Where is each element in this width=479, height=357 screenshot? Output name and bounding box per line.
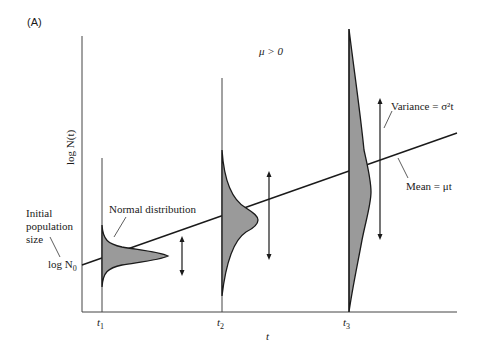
condition-label: μ > 0 [259, 45, 283, 58]
panel-label: (A) [27, 16, 42, 29]
y-axis-label-text: log N(t) [64, 130, 76, 165]
tick-t2-sub: 2 [220, 322, 224, 331]
t1-distribution [102, 225, 168, 287]
initial-population-line3: size [26, 233, 73, 246]
leader-normal-distribution [114, 217, 126, 237]
arrow-down-icon [378, 234, 383, 240]
t2-distribution [222, 150, 258, 296]
variance-label: Variance = σ²t [391, 100, 453, 113]
arrow-up-icon [378, 98, 383, 104]
diagram-canvas [0, 0, 479, 357]
t3-distribution [349, 29, 371, 312]
arrow-up-icon [180, 236, 185, 242]
mean-label: Mean = μt [406, 180, 452, 193]
tick-t3-sub: 3 [346, 322, 350, 331]
x-axis-label: t [266, 330, 269, 343]
log-n0-label: log N0 [48, 258, 77, 275]
initial-population-line2: population [26, 220, 73, 233]
normal-distribution-label: Normal distribution [109, 203, 196, 216]
y-axis-label: log N(t) [64, 130, 77, 165]
initial-population-label: Initial population size [26, 207, 73, 246]
leader-variance [384, 111, 392, 128]
tick-t1: t1 [97, 316, 104, 333]
log-n0-prefix: log N [48, 258, 73, 270]
leader-mean [398, 158, 408, 178]
tick-t1-sub: 1 [100, 322, 104, 331]
arrow-up-icon [267, 171, 272, 177]
arrow-down-icon [180, 270, 185, 276]
tick-t3: t3 [343, 316, 350, 333]
log-n0-sub: 0 [73, 264, 77, 273]
initial-population-line1: Initial [26, 207, 73, 220]
tick-t2: t2 [217, 316, 224, 333]
arrow-down-icon [267, 254, 272, 260]
